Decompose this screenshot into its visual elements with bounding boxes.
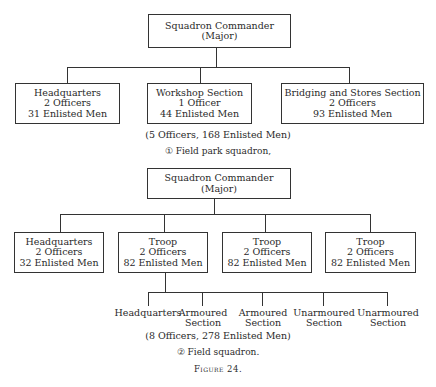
squadron-commander-box: Squadron Commander (Major) xyxy=(147,168,291,199)
subunit-unarmoured-section-1: Unarmoured Section xyxy=(293,308,354,328)
connector xyxy=(202,292,203,306)
headquarters-box: Headquarters 2 Officers 32 Enlisted Men xyxy=(14,232,104,273)
subunit-armoured-section-2: Armoured Section xyxy=(239,308,288,328)
enlisted-count: 82 Enlisted Men xyxy=(227,258,306,269)
connector xyxy=(200,67,201,83)
chart2-caption: ② Field squadron. xyxy=(0,347,436,357)
enlisted-count: 93 Enlisted Men xyxy=(313,109,392,120)
commander-rank: (Major) xyxy=(201,184,237,195)
squadron-commander-box: Squadron Commander (Major) xyxy=(148,14,291,48)
connector xyxy=(148,292,149,306)
chart1-total: (5 Officers, 168 Enlisted Men) xyxy=(0,129,436,140)
connector xyxy=(323,292,324,306)
connector xyxy=(67,67,68,83)
commander-rank: (Major) xyxy=(201,31,237,42)
connector xyxy=(60,214,61,232)
connector xyxy=(165,273,166,292)
enlisted-count: 44 Enlisted Men xyxy=(160,109,239,120)
connector xyxy=(387,292,388,306)
subunit-headquarters: Headquarters xyxy=(115,308,182,318)
subunit-label: Headquarters xyxy=(115,308,182,318)
connector xyxy=(349,67,350,83)
subunit-label: Section xyxy=(357,318,418,328)
chart2-total: (8 Officers, 278 Enlisted Men) xyxy=(0,330,436,341)
troop-box-3: Troop 2 Officers 82 Enlisted Men xyxy=(325,232,416,273)
enlisted-count: 32 Enlisted Men xyxy=(19,258,98,269)
connector xyxy=(67,67,350,68)
subunit-unarmoured-section-2: Unarmoured Section xyxy=(357,308,418,328)
enlisted-count: 82 Enlisted Men xyxy=(331,258,410,269)
connector xyxy=(60,214,371,215)
subunit-label: Section xyxy=(179,318,228,328)
connector xyxy=(370,214,371,232)
connector xyxy=(262,292,263,306)
commander-title: Squadron Commander xyxy=(165,173,274,184)
subunit-label: Section xyxy=(293,318,354,328)
connector xyxy=(265,214,266,232)
subunit-armoured-section-1: Armoured Section xyxy=(179,308,228,328)
connector xyxy=(148,292,388,293)
subunit-label: Section xyxy=(239,318,288,328)
connector xyxy=(214,199,215,214)
connector xyxy=(164,214,165,232)
workshop-section-box: Workshop Section 1 Officer 44 Enlisted M… xyxy=(147,83,252,124)
headquarters-box: Headquarters 2 Officers 31 Enlisted Men xyxy=(15,83,120,124)
connector xyxy=(216,48,217,67)
enlisted-count: 82 Enlisted Men xyxy=(123,258,202,269)
chart1-caption: ① Field park squadron, xyxy=(0,146,436,156)
enlisted-count: 31 Enlisted Men xyxy=(28,109,107,120)
figure-label: Figure 24. xyxy=(0,364,436,374)
troop-box-1: Troop 2 Officers 82 Enlisted Men xyxy=(118,232,208,273)
troop-box-2: Troop 2 Officers 82 Enlisted Men xyxy=(222,232,312,273)
bridging-stores-section-box: Bridging and Stores Section 2 Officers 9… xyxy=(281,83,424,124)
